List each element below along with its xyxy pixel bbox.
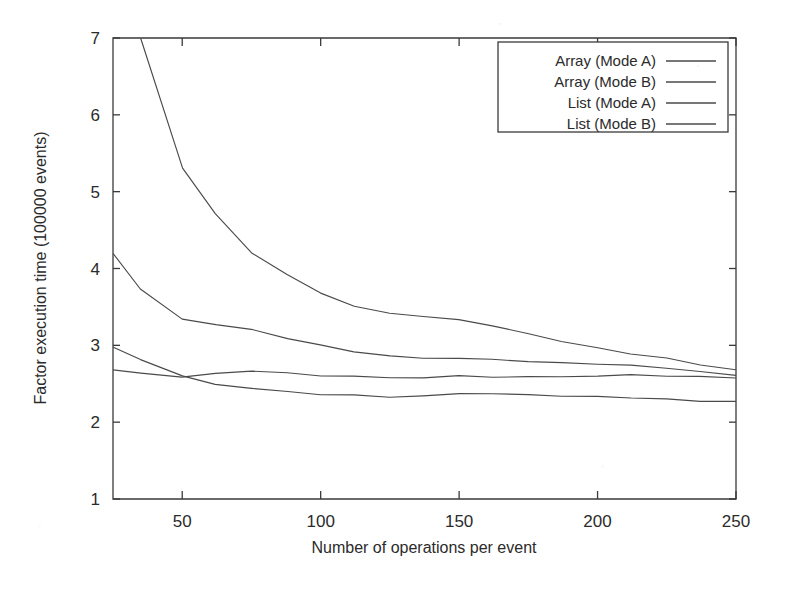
x-axis-title: Number of operations per event	[311, 539, 537, 556]
y-tick-label: 6	[91, 106, 100, 125]
chart-legend: Array (Mode A)Array (Mode B)List (Mode A…	[498, 42, 728, 132]
y-tick-label: 5	[91, 183, 100, 202]
x-tick-label: 200	[583, 512, 611, 531]
y-tick-label: 3	[91, 336, 100, 355]
legend-label: List (Mode B)	[567, 115, 656, 132]
x-tick-label: 250	[722, 512, 750, 531]
y-tick-label: 4	[91, 260, 100, 279]
x-tick-label: 50	[173, 512, 192, 531]
legend-label: Array (Mode A)	[555, 52, 656, 69]
y-axis-title: Factor execution time (100000 events)	[32, 131, 49, 404]
y-tick-label: 1	[91, 490, 100, 509]
line-chart: 1234567 50100150200250 Array (Mode A)Arr…	[0, 0, 793, 598]
y-tick-label: 2	[91, 413, 100, 432]
legend-label: List (Mode A)	[568, 94, 656, 111]
chart-figure: 1234567 50100150200250 Array (Mode A)Arr…	[0, 0, 793, 598]
legend-label: Array (Mode B)	[554, 73, 656, 90]
y-tick-label: 7	[91, 29, 100, 48]
x-tick-label: 150	[445, 512, 473, 531]
series-line	[113, 254, 736, 376]
series-line	[113, 370, 736, 378]
x-tick-label: 100	[306, 512, 334, 531]
